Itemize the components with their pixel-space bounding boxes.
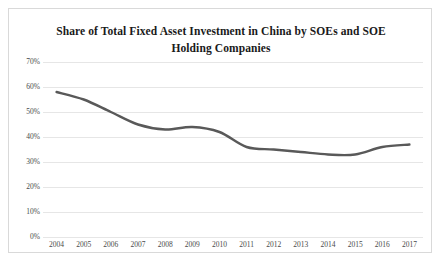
x-axis-tick-label: 2012 [259, 240, 289, 250]
x-axis-tick-label: 2011 [232, 240, 262, 250]
x-axis-tick-label: 2004 [42, 240, 72, 250]
chart-frame: Share of Total Fixed Asset Investment in… [8, 8, 432, 253]
x-axis-tick-label: 2010 [204, 240, 234, 250]
line-series [43, 62, 423, 237]
series-line [57, 92, 410, 155]
y-axis-tick-label: 40% [12, 133, 40, 141]
x-axis-tick-label: 2015 [340, 240, 370, 250]
y-axis-tick-label: 20% [12, 183, 40, 191]
x-axis-tick-label: 2017 [394, 240, 424, 250]
y-axis-tick-label: 50% [12, 108, 40, 116]
y-axis-tick-label: 30% [12, 158, 40, 166]
x-axis-tick-label: 2009 [177, 240, 207, 250]
y-axis-tick-label: 10% [12, 208, 40, 216]
gridline [43, 237, 423, 238]
x-axis-tick-label: 2013 [286, 240, 316, 250]
chart-screenshot: Share of Total Fixed Asset Investment in… [0, 0, 442, 261]
y-axis-tick-label: 60% [12, 83, 40, 91]
x-axis-tick-label: 2014 [313, 240, 343, 250]
x-axis-tick-label: 2007 [123, 240, 153, 250]
y-axis-tick-label: 0% [12, 233, 40, 241]
y-axis: 70%60%50%40%30%20%10%0% [9, 62, 40, 237]
x-axis-tick-label: 2016 [367, 240, 397, 250]
x-axis-tick-label: 2008 [150, 240, 180, 250]
x-axis: 2004200520062007200820092010201120122013… [43, 240, 423, 254]
y-axis-tick-label: 70% [12, 58, 40, 66]
x-axis-tick-label: 2005 [69, 240, 99, 250]
plot-area [43, 62, 423, 237]
chart-title: Share of Total Fixed Asset Investment in… [39, 23, 403, 57]
x-axis-tick-label: 2006 [96, 240, 126, 250]
